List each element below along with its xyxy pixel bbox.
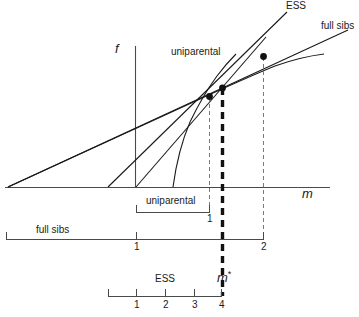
ess-curve-label: ESS [286,1,306,11]
scale-label-full-sibs: full sibs [36,225,69,235]
scale-tick-ess-2: 2 [163,300,169,310]
scale-tick-full-sibs-1: 1 [134,242,140,252]
m-star-asterisk: * [228,269,232,279]
point-intersection-low [206,93,213,100]
scale-bar-ess [108,289,222,297]
ess-line [108,12,287,187]
y-axis-label: f [115,42,119,55]
scale-tick-ess-1: 1 [134,300,140,310]
scale-tick-ess-3: 3 [192,300,198,310]
figure-canvas: f m ESS full sibs uniparental uniparenta… [0,0,359,317]
scale-tick-uniparental-1: 1 [207,214,213,224]
full-sibs-curve [8,54,324,187]
m-star-label: m* [217,270,231,284]
uniparental-curve-label: uniparental [171,47,220,57]
point-intersection-high [260,53,267,60]
scale-tick-full-sibs-2: 2 [261,242,267,252]
point-intersection-mid [219,85,226,92]
uniparental-tangent-line [136,37,266,187]
m-star-base: m [217,270,228,285]
full-sibs-curve-label: full sibs [321,21,354,31]
scale-label-uniparental: uniparental [146,196,195,206]
scale-label-ess: ESS [155,274,175,284]
uniparental-curve [173,54,236,187]
x-axis-label: m [302,187,313,200]
scale-tick-ess-4: 4 [219,300,225,310]
scale-bar-uniparental [136,205,210,213]
